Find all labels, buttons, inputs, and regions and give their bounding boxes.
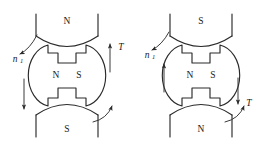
speed-label-group: n 1: [145, 50, 156, 60]
diagram-left: N S N S n 1 T: [0, 0, 134, 151]
rotation-curved-arrow: [225, 106, 244, 122]
rotor-right-pole-label: S: [210, 70, 215, 80]
torque-label: T: [118, 42, 124, 52]
figure-canvas: N S N S n 1 T: [0, 0, 268, 151]
stator-bottom-pole-label: N: [198, 124, 205, 134]
stator-bottom-pole-label: S: [64, 124, 69, 134]
speed-leader-line: [20, 35, 37, 54]
speed-label: n: [145, 50, 150, 60]
stator-top-pole-label: S: [198, 16, 203, 26]
diagram-right: N S S N n 1 T: [134, 0, 268, 151]
speed-subscript: 1: [152, 53, 155, 60]
torque-label: T: [246, 98, 252, 108]
speed-leader-line: [152, 32, 169, 50]
rotor-body: [162, 45, 239, 106]
stator-top-pole-label: N: [64, 16, 71, 26]
speed-subscript: 1: [20, 57, 23, 64]
rotor-left-pole-label: N: [187, 70, 194, 80]
rotor-body: [28, 45, 105, 106]
rotor-right-pole-label: S: [76, 70, 81, 80]
rotor-left-pole-label: N: [53, 70, 60, 80]
speed-label-group: n 1: [13, 54, 24, 64]
speed-label: n: [13, 54, 18, 64]
